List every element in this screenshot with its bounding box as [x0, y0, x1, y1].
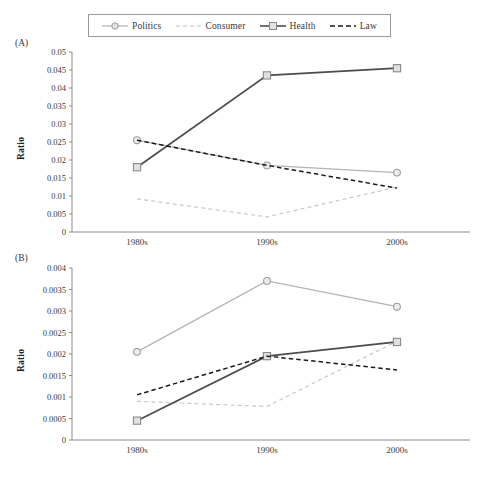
data-point-marker-politics — [394, 169, 401, 176]
data-point-marker-politics — [264, 278, 271, 285]
data-point-marker-health — [133, 417, 140, 424]
data-point-marker-health — [133, 164, 140, 171]
legend-item-politics: Politics — [102, 21, 161, 31]
x-tick-label: 1980s — [126, 445, 148, 455]
data-point-marker-health — [263, 72, 270, 79]
series-line-consumer — [137, 187, 397, 217]
legend-swatch-consumer — [176, 21, 202, 31]
legend-item-law: Law — [330, 21, 377, 31]
y-tick-label: 0.0015 — [43, 371, 66, 381]
y-tick-label: 0 — [62, 227, 66, 237]
chart-legend: Politics Consumer Health Law — [88, 14, 391, 37]
series-line-law — [137, 356, 397, 395]
y-tick-label: 0.015 — [47, 173, 66, 183]
data-point-marker-health — [393, 65, 400, 72]
y-tick-label: 0.045 — [47, 65, 66, 75]
y-tick-label: 0.03 — [51, 119, 66, 129]
y-tick-label: 0.001 — [47, 392, 66, 402]
y-tick-label: 0.0005 — [43, 414, 66, 424]
y-tick-label: 0.035 — [47, 101, 66, 111]
legend-label-law: Law — [360, 21, 377, 31]
chart-panel-b: 00.00050.0010.00150.0020.00250.0030.0035… — [0, 260, 479, 472]
y-tick-label: 0 — [62, 435, 66, 445]
x-tick-label: 1990s — [256, 445, 278, 455]
figure-container: Politics Consumer Health Law (A) (B) Rat… — [0, 0, 479, 482]
legend-item-consumer: Consumer — [176, 21, 246, 31]
chart-panel-a: 00.0050.010.0150.020.0250.030.0350.040.0… — [0, 44, 479, 254]
legend-label-politics: Politics — [132, 21, 161, 31]
data-point-marker-health — [393, 338, 400, 345]
data-point-marker-politics — [394, 303, 401, 310]
x-tick-label: 1990s — [256, 237, 278, 247]
y-tick-label: 0.005 — [47, 209, 66, 219]
legend-item-health: Health — [260, 21, 316, 31]
legend-swatch-health — [260, 21, 286, 31]
y-tick-label: 0.0035 — [43, 285, 66, 295]
y-tick-label: 0.01 — [51, 191, 66, 201]
y-tick-label: 0.004 — [47, 263, 67, 273]
legend-swatch-politics — [102, 21, 128, 31]
x-tick-label: 2000s — [386, 237, 408, 247]
y-tick-label: 0.0025 — [43, 328, 66, 338]
series-line-politics — [137, 281, 397, 352]
y-tick-label: 0.02 — [51, 155, 66, 165]
series-line-health — [137, 68, 397, 167]
x-tick-label: 1980s — [126, 237, 148, 247]
legend-label-consumer: Consumer — [206, 21, 246, 31]
x-tick-label: 2000s — [386, 445, 408, 455]
y-tick-label: 0.002 — [47, 349, 66, 359]
legend-swatch-law — [330, 21, 356, 31]
y-tick-label: 0.003 — [47, 306, 66, 316]
y-tick-label: 0.025 — [47, 137, 66, 147]
y-tick-label: 0.05 — [51, 47, 66, 57]
series-line-consumer — [137, 341, 397, 406]
data-point-marker-politics — [134, 348, 141, 355]
y-tick-label: 0.04 — [51, 83, 67, 93]
legend-label-health: Health — [290, 21, 316, 31]
